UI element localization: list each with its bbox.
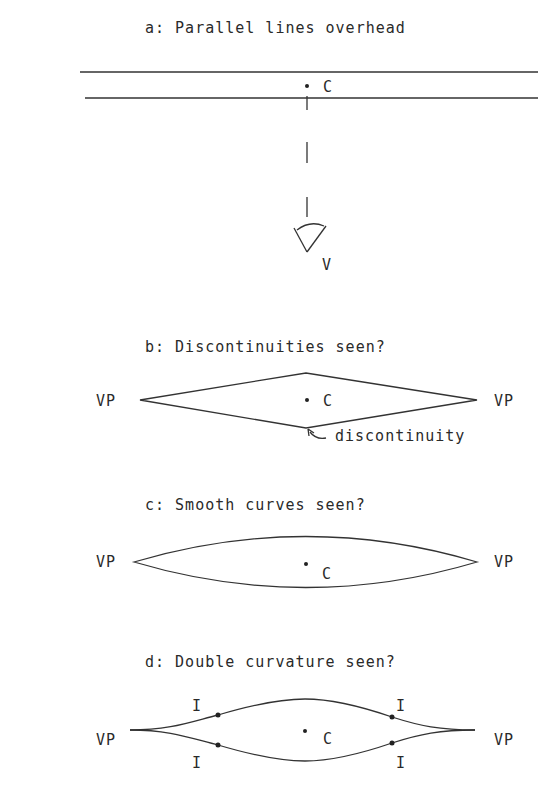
perspective-diagram: a: Parallel lines overhead C V b: Discon… [0,0,554,794]
center-label: C [323,392,333,410]
panel-c: c: Smooth curves seen? VP VP C [96,496,514,588]
inflection-point [216,713,221,718]
curved-arrow-icon [310,432,326,438]
vp-right-label: VP [494,731,514,749]
center-point [305,398,309,402]
panel-b: b: Discontinuities seen? VP VP C discont… [96,338,514,445]
inflection-label: I [396,697,406,715]
center-label: C [322,565,332,583]
center-label: C [323,78,333,96]
center-point [304,562,308,566]
lower-curve [130,730,475,761]
inflection-label: I [396,754,406,772]
inflection-point [390,741,395,746]
panel-d: d: Double curvature seen? VP VP I I I I … [96,653,514,772]
panel-c-title: c: Smooth curves seen? [145,496,366,514]
vp-left-label: VP [96,392,116,410]
eye-icon [294,224,326,252]
vp-right-label: VP [494,392,514,410]
vp-left-label: VP [96,553,116,571]
lens-shape [134,537,477,588]
panel-d-title: d: Double curvature seen? [145,653,396,671]
panel-b-title: b: Discontinuities seen? [145,338,386,356]
center-point [303,729,307,733]
inflection-point [390,715,395,720]
inflection-label: I [192,697,202,715]
panel-a: a: Parallel lines overhead C V [80,19,538,274]
panel-a-title: a: Parallel lines overhead [145,19,406,37]
center-label: C [323,730,333,748]
vp-right-label: VP [494,553,514,571]
inflection-label: I [192,754,202,772]
upper-curve [130,699,475,730]
center-point [305,84,309,88]
inflection-point [216,743,221,748]
discontinuity-label: discontinuity [335,427,465,445]
vp-left-label: VP [96,731,116,749]
viewer-label: V [322,256,332,274]
